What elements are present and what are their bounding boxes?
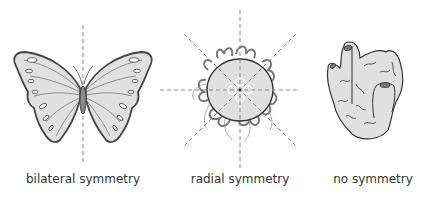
symmetry-axes <box>160 10 300 170</box>
caption-radial: radial symmetry <box>191 172 290 186</box>
caption-none: no symmetry <box>333 172 413 186</box>
jellyfish-illustration <box>160 0 300 201</box>
bilateral-panel: bilateral symmetry <box>0 0 165 201</box>
asymmetric-panel: no symmetry <box>300 0 430 201</box>
sponge-illustration <box>300 0 430 201</box>
butterfly-illustration <box>0 0 165 201</box>
caption-bilateral: bilateral symmetry <box>26 172 140 186</box>
radial-panel: radial symmetry <box>160 0 300 201</box>
